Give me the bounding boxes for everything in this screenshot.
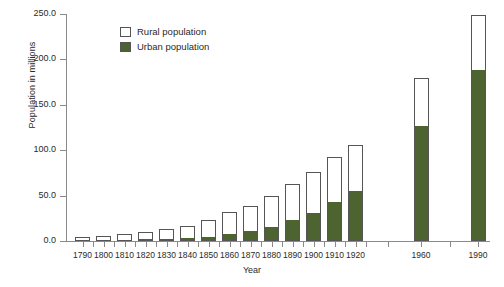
x-tick-label: 1920 [346, 250, 365, 260]
bar-1960 [414, 78, 429, 241]
x-tick-label: 1850 [199, 250, 218, 260]
legend-item-urban: Urban population [120, 39, 209, 54]
x-tick-label: 1860 [220, 250, 239, 260]
y-tick-label: 0.0 [43, 235, 56, 245]
x-tick [293, 241, 294, 247]
x-tick-label: 1800 [94, 250, 113, 260]
y-tick: 250.0 [60, 14, 67, 15]
x-tick-minor [240, 241, 241, 247]
x-axis-title: Year [0, 265, 504, 275]
bar-1850 [201, 220, 216, 241]
x-tick [167, 241, 168, 247]
bar-urban-segment [160, 239, 173, 240]
x-tick-label: 1890 [283, 250, 302, 260]
x-tick [146, 241, 147, 247]
bar-1880 [264, 196, 279, 241]
y-tick: 50.0 [60, 196, 67, 197]
x-tick [230, 241, 231, 247]
y-tick-label: 150.0 [33, 99, 56, 109]
y-tick: 150.0 [60, 105, 67, 106]
x-tick-minor [303, 241, 304, 247]
y-tick: 100.0 [60, 150, 67, 151]
bar-urban-segment [223, 234, 236, 240]
y-tick-label: 200.0 [33, 53, 56, 63]
bar-1830 [159, 229, 174, 241]
y-axis-line [66, 14, 67, 242]
x-tick-label: 1880 [262, 250, 281, 260]
bar-urban-segment [472, 70, 485, 240]
x-tick-label: 1990 [469, 250, 488, 260]
bar-urban-segment [349, 191, 362, 240]
legend-label-urban: Urban population [137, 41, 209, 52]
urban-swatch-icon [120, 42, 131, 52]
y-axis-title: Population in millions [27, 5, 37, 165]
y-tick: 0.0 [60, 241, 67, 242]
x-tick [356, 241, 357, 247]
x-tick [478, 241, 479, 247]
bar-1990 [471, 15, 486, 241]
x-tick-minor [219, 241, 220, 247]
bar-1840 [180, 226, 195, 241]
y-tick-label: 50.0 [38, 190, 56, 200]
y-tick: 200.0 [60, 59, 67, 60]
rural-swatch-icon [120, 27, 131, 37]
x-tick-label: 1820 [136, 250, 155, 260]
x-tick [104, 241, 105, 247]
bar-1910 [327, 157, 342, 241]
x-tick-label: 1910 [325, 250, 344, 260]
bar-urban-segment [328, 202, 341, 240]
x-tick-minor [93, 241, 94, 247]
x-tick [251, 241, 252, 247]
bar-1810 [117, 234, 132, 241]
bar-1860 [222, 212, 237, 241]
bar-urban-segment [307, 213, 320, 240]
x-tick-minor [114, 241, 115, 247]
x-tick-label: 1810 [115, 250, 134, 260]
bar-1820 [138, 232, 153, 241]
x-tick-label: 1960 [412, 250, 431, 260]
bar-urban-segment [139, 239, 152, 240]
bar-urban-segment [415, 126, 428, 240]
chart-legend: Rural population Urban population [120, 24, 209, 54]
bar-urban-segment [202, 237, 215, 240]
x-tick [209, 241, 210, 247]
x-tick-minor [198, 241, 199, 247]
bar-urban-segment [265, 227, 278, 240]
x-tick-label: 1840 [178, 250, 197, 260]
x-tick [188, 241, 189, 247]
bar-urban-segment [244, 231, 257, 240]
x-tick-label: 1900 [304, 250, 323, 260]
x-tick-minor [261, 241, 262, 247]
bar-urban-segment [181, 238, 194, 240]
bar-1890 [285, 184, 300, 241]
x-tick-minor [135, 241, 136, 247]
x-tick [421, 241, 422, 247]
x-axis-line [66, 241, 490, 242]
x-tick-minor [345, 241, 346, 247]
bar-1920 [348, 145, 363, 241]
bar-1900 [306, 172, 321, 241]
x-tick-minor [177, 241, 178, 247]
x-tick-minor [324, 241, 325, 247]
population-bar-chart: Population in millions Year 0.050.0100.0… [0, 0, 504, 287]
x-tick-minor [282, 241, 283, 247]
x-tick-minor [156, 241, 157, 247]
bar-urban-segment [286, 220, 299, 240]
y-tick-label: 100.0 [33, 144, 56, 154]
y-tick-label: 250.0 [33, 8, 56, 18]
x-tick-label: 1790 [73, 250, 92, 260]
bar-1870 [243, 206, 258, 241]
x-tick [83, 241, 84, 247]
x-tick-minor [450, 241, 451, 247]
legend-item-rural: Rural population [120, 24, 209, 39]
legend-label-rural: Rural population [137, 26, 206, 37]
x-tick [314, 241, 315, 247]
x-tick [125, 241, 126, 247]
x-tick [335, 241, 336, 247]
x-tick [272, 241, 273, 247]
x-tick-label: 1830 [157, 250, 176, 260]
x-tick-label: 1870 [241, 250, 260, 260]
x-tick-minor [388, 241, 389, 247]
x-tick-minor [366, 241, 367, 247]
